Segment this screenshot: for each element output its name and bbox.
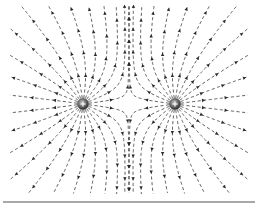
field-diagram [0, 0, 258, 210]
baseline-layer [0, 0, 258, 210]
